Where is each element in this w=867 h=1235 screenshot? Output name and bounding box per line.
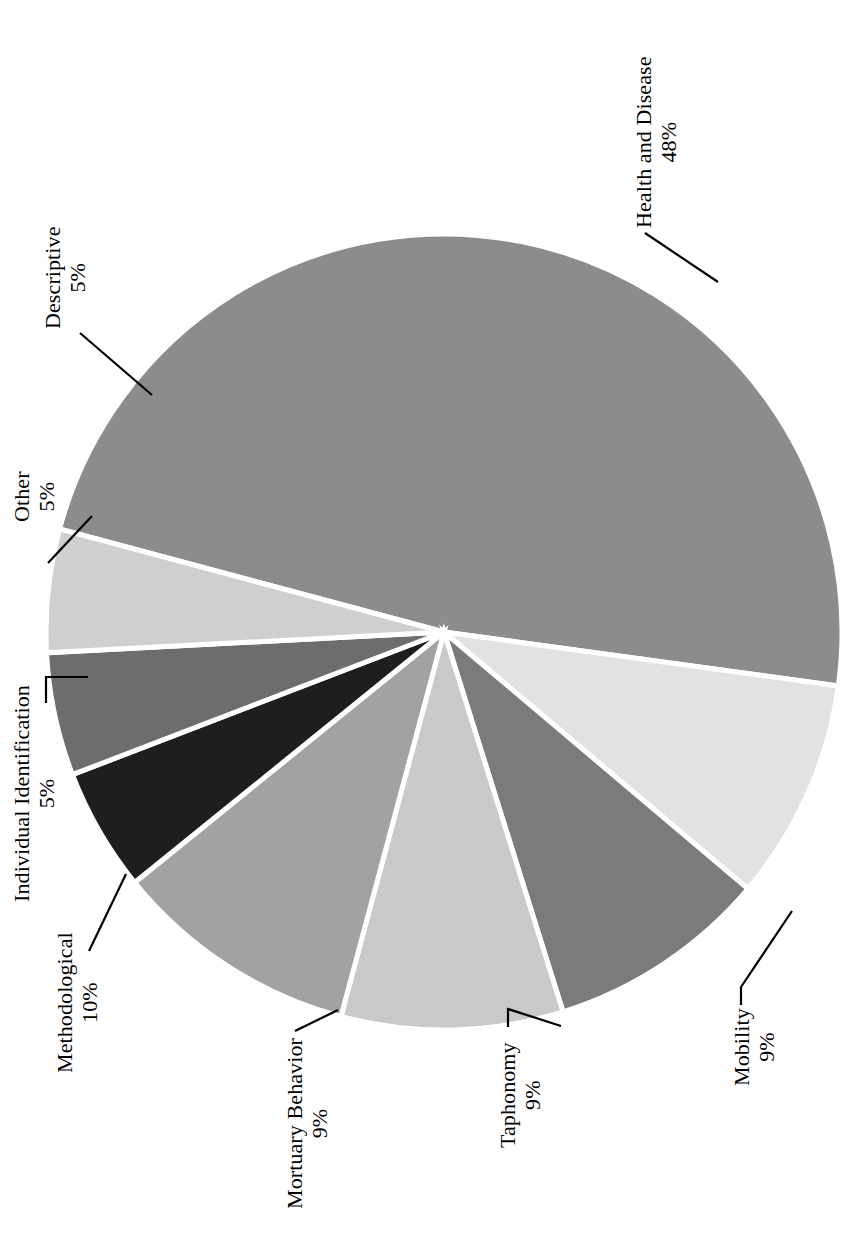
- leader-line-mortuary: [295, 1010, 338, 1031]
- slice-label-mortuary-behavior: Mortuary Behavior 9%: [283, 1038, 332, 1209]
- slice-label-descriptive: Descriptive 5%: [41, 226, 90, 329]
- slice-label-percent: 5%: [35, 471, 60, 522]
- slice-label-percent: 48%: [657, 56, 682, 228]
- pie-slices-group: [46, 234, 842, 1030]
- slice-label-percent: 10%: [78, 932, 103, 1073]
- pie-chart-figure: Health and Disease 48% Descriptive 5% Ot…: [0, 0, 867, 1235]
- slice-label-category: Mortuary Behavior: [283, 1038, 308, 1209]
- slice-label-other: Other 5%: [10, 471, 59, 522]
- slice-label-percent: 9%: [755, 1008, 780, 1086]
- slice-label-taphonomy: Taphonomy 9%: [496, 1042, 545, 1148]
- slice-label-methodological: Methodological 10%: [53, 932, 102, 1073]
- slice-label-health-and-disease: Health and Disease 48%: [632, 56, 681, 228]
- slice-label-percent: 9%: [308, 1038, 333, 1209]
- leader-line-health: [645, 233, 718, 282]
- slice-label-percent: 9%: [521, 1042, 546, 1148]
- leader-line-descriptive: [80, 333, 152, 395]
- slice-label-category: Taphonomy: [496, 1042, 521, 1148]
- slice-label-percent: 5%: [35, 685, 60, 902]
- slice-label-percent: 5%: [66, 226, 91, 329]
- slice-label-individual-identification: Individual Identification 5%: [10, 685, 59, 902]
- slice-label-category: Mobility: [730, 1008, 755, 1086]
- slice-label-category: Health and Disease: [632, 56, 657, 228]
- slice-label-category: Other: [10, 471, 35, 522]
- slice-label-category: Descriptive: [41, 226, 66, 329]
- slice-label-mobility: Mobility 9%: [730, 1008, 779, 1086]
- slice-label-category: Methodological: [53, 932, 78, 1073]
- leader-line-mobility: [741, 911, 792, 1005]
- slice-label-category: Individual Identification: [10, 685, 35, 902]
